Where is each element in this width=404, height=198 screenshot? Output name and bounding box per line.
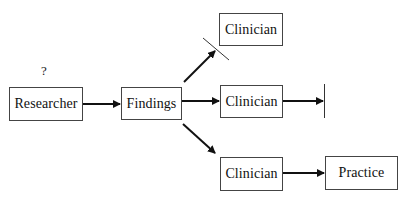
node-practice: Practice [325,156,398,190]
question-mark-annotation: ? [41,63,47,79]
arrow-findings-to-bottom-clinician [183,124,215,153]
node-findings-label: Findings [127,96,177,112]
node-clinician-bottom-label: Clinician [225,166,277,182]
node-researcher: Researcher [9,87,83,121]
node-clinician-middle-label: Clinician [225,94,277,110]
arrow-findings-to-top-clinician [184,51,215,82]
node-clinician-middle: Clinician [220,85,283,118]
node-clinician-top-label: Clinician [225,22,277,38]
node-clinician-top: Clinician [219,13,283,46]
node-findings: Findings [121,87,182,120]
node-researcher-label: Researcher [14,96,77,112]
research-to-practice-diagram: ? Researcher Findings Clinician Clinicia… [0,0,404,198]
node-practice-label: Practice [339,165,385,181]
node-clinician-bottom: Clinician [220,157,283,191]
